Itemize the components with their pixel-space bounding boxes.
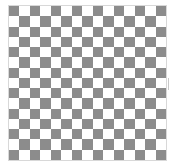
board-square[interactable] bbox=[40, 150, 50, 160]
board-square[interactable] bbox=[51, 57, 61, 67]
board-square[interactable] bbox=[114, 6, 124, 16]
board-square[interactable] bbox=[135, 78, 145, 88]
board-square[interactable] bbox=[40, 129, 50, 139]
board-square[interactable] bbox=[103, 6, 113, 16]
board-square[interactable] bbox=[93, 47, 103, 57]
board-square[interactable] bbox=[30, 37, 40, 47]
board-square[interactable] bbox=[9, 88, 19, 98]
board-square[interactable] bbox=[9, 57, 19, 67]
board-square[interactable] bbox=[9, 47, 19, 57]
board-square[interactable] bbox=[156, 37, 166, 47]
board-square[interactable] bbox=[40, 27, 50, 37]
board-square[interactable] bbox=[51, 47, 61, 57]
board-square[interactable] bbox=[9, 129, 19, 139]
board-square[interactable] bbox=[82, 27, 92, 37]
board-square[interactable] bbox=[40, 139, 50, 149]
board-square[interactable] bbox=[135, 88, 145, 98]
board-square[interactable] bbox=[9, 37, 19, 47]
board-square[interactable] bbox=[114, 119, 124, 129]
board-square[interactable] bbox=[145, 150, 155, 160]
board-square[interactable] bbox=[51, 119, 61, 129]
board-square[interactable] bbox=[51, 37, 61, 47]
board-square[interactable] bbox=[19, 6, 29, 16]
board-square[interactable] bbox=[145, 16, 155, 26]
board-square[interactable] bbox=[9, 150, 19, 160]
board-square[interactable] bbox=[19, 27, 29, 37]
board-square[interactable] bbox=[72, 119, 82, 129]
board-square[interactable] bbox=[124, 47, 134, 57]
board-square[interactable] bbox=[156, 129, 166, 139]
board-square[interactable] bbox=[145, 109, 155, 119]
board-square[interactable] bbox=[30, 6, 40, 16]
board-square[interactable] bbox=[82, 88, 92, 98]
board-square[interactable] bbox=[124, 139, 134, 149]
board-square[interactable] bbox=[61, 139, 71, 149]
board-square[interactable] bbox=[51, 150, 61, 160]
board-square[interactable] bbox=[40, 57, 50, 67]
board-square[interactable] bbox=[40, 37, 50, 47]
board-square[interactable] bbox=[61, 88, 71, 98]
board-square[interactable] bbox=[51, 27, 61, 37]
board-square[interactable] bbox=[19, 68, 29, 78]
board-square[interactable] bbox=[93, 88, 103, 98]
board-square[interactable] bbox=[145, 129, 155, 139]
board-square[interactable] bbox=[19, 98, 29, 108]
board-square[interactable] bbox=[156, 47, 166, 57]
board-square[interactable] bbox=[51, 129, 61, 139]
board-square[interactable] bbox=[82, 139, 92, 149]
board-square[interactable] bbox=[135, 68, 145, 78]
board-square[interactable] bbox=[19, 150, 29, 160]
board-square[interactable] bbox=[61, 57, 71, 67]
board-square[interactable] bbox=[145, 119, 155, 129]
board-square[interactable] bbox=[9, 109, 19, 119]
board-square[interactable] bbox=[72, 88, 82, 98]
board-square[interactable] bbox=[145, 37, 155, 47]
board-square[interactable] bbox=[9, 6, 19, 16]
board-square[interactable] bbox=[40, 16, 50, 26]
board-square[interactable] bbox=[30, 98, 40, 108]
board-square[interactable] bbox=[156, 78, 166, 88]
board-square[interactable] bbox=[103, 139, 113, 149]
board-square[interactable] bbox=[82, 6, 92, 16]
board-square[interactable] bbox=[103, 150, 113, 160]
board-square[interactable] bbox=[61, 47, 71, 57]
board-square[interactable] bbox=[82, 78, 92, 88]
board-square[interactable] bbox=[156, 16, 166, 26]
board-square[interactable] bbox=[124, 119, 134, 129]
board-square[interactable] bbox=[19, 37, 29, 47]
board-square[interactable] bbox=[156, 88, 166, 98]
board-square[interactable] bbox=[156, 150, 166, 160]
board-square[interactable] bbox=[124, 6, 134, 16]
board-square[interactable] bbox=[61, 150, 71, 160]
board-square[interactable] bbox=[114, 109, 124, 119]
board-square[interactable] bbox=[145, 6, 155, 16]
board-square[interactable] bbox=[30, 16, 40, 26]
board-square[interactable] bbox=[156, 139, 166, 149]
board-square[interactable] bbox=[51, 98, 61, 108]
board-square[interactable] bbox=[9, 78, 19, 88]
board-square[interactable] bbox=[9, 98, 19, 108]
board-square[interactable] bbox=[93, 98, 103, 108]
board-square[interactable] bbox=[30, 139, 40, 149]
board-square[interactable] bbox=[114, 27, 124, 37]
board-square[interactable] bbox=[135, 57, 145, 67]
board-square[interactable] bbox=[61, 129, 71, 139]
board-square[interactable] bbox=[19, 109, 29, 119]
board-square[interactable] bbox=[124, 109, 134, 119]
board-square[interactable] bbox=[156, 6, 166, 16]
board-square[interactable] bbox=[156, 68, 166, 78]
board-square[interactable] bbox=[145, 27, 155, 37]
board-square[interactable] bbox=[9, 139, 19, 149]
board-square[interactable] bbox=[145, 57, 155, 67]
board-square[interactable] bbox=[72, 57, 82, 67]
board-square[interactable] bbox=[51, 88, 61, 98]
board-square[interactable] bbox=[93, 109, 103, 119]
board-square[interactable] bbox=[114, 78, 124, 88]
board-square[interactable] bbox=[61, 68, 71, 78]
board-square[interactable] bbox=[61, 78, 71, 88]
board-square[interactable] bbox=[30, 109, 40, 119]
board-square[interactable] bbox=[9, 16, 19, 26]
board-square[interactable] bbox=[9, 68, 19, 78]
board-square[interactable] bbox=[124, 16, 134, 26]
board-square[interactable] bbox=[156, 119, 166, 129]
